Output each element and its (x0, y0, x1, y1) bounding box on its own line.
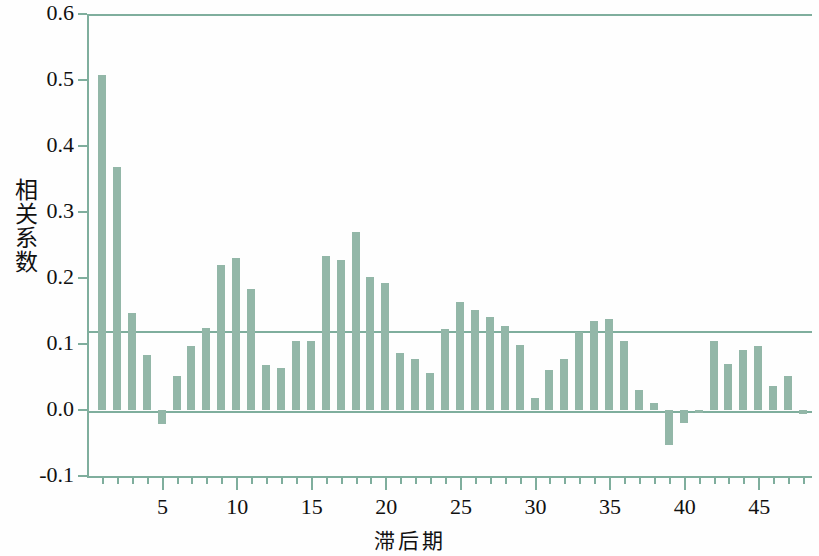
y-axis-tick-label: 0.5 (47, 66, 75, 92)
bar-lag-12 (262, 365, 270, 410)
bar-lag-4 (143, 355, 151, 410)
x-axis-major-tick: 35 (609, 476, 611, 490)
x-axis-tick-label: 15 (301, 494, 323, 520)
y-axis-tick-label: 0.0 (47, 396, 75, 422)
y-axis-tick-label: 0.4 (47, 132, 75, 158)
bar-lag-32 (560, 359, 568, 410)
x-axis-minor-tick (132, 476, 134, 484)
bar-lag-41 (695, 410, 703, 413)
x-axis-minor-tick (579, 476, 581, 484)
x-axis-minor-tick (520, 476, 522, 484)
x-axis-minor-tick (803, 476, 805, 484)
y-axis-tick: -0.1 (78, 475, 87, 477)
x-axis-minor-tick (490, 476, 492, 484)
bar-lag-5 (158, 410, 166, 424)
bar-lag-16 (322, 256, 330, 410)
y-axis-tick-label: 0.2 (47, 264, 75, 290)
x-axis-tick-label: 30 (525, 494, 547, 520)
x-axis-minor-tick (296, 476, 298, 484)
x-axis-minor-tick (326, 476, 328, 484)
x-axis-major-tick: 30 (535, 476, 537, 490)
y-axis-tick: 0.1 (78, 343, 87, 345)
bar-lag-35 (605, 319, 613, 410)
bar-lag-23 (426, 373, 434, 410)
x-axis-minor-tick (594, 476, 596, 484)
bar-lag-45 (754, 346, 762, 410)
x-axis-minor-tick (475, 476, 477, 484)
x-axis-minor-tick (773, 476, 775, 484)
bar-lag-21 (396, 353, 404, 410)
bar-lag-36 (620, 341, 628, 410)
bar-lag-31 (545, 370, 553, 410)
x-axis-minor-tick (356, 476, 358, 484)
x-axis-minor-tick (430, 476, 432, 484)
bar-lag-11 (247, 289, 255, 410)
x-axis-minor-tick (699, 476, 701, 484)
bar-lag-47 (784, 376, 792, 410)
x-axis-minor-tick (624, 476, 626, 484)
bar-lag-40 (680, 410, 688, 423)
x-axis-minor-tick (445, 476, 447, 484)
y-axis-tick: 0.6 (78, 13, 87, 15)
x-axis-major-tick: 15 (311, 476, 313, 490)
x-axis-minor-tick (714, 476, 716, 484)
x-axis-minor-tick (654, 476, 656, 484)
bar-lag-9 (217, 265, 225, 410)
bar-lag-26 (471, 310, 479, 410)
x-axis-minor-tick (281, 476, 283, 484)
y-axis-tick: 0.3 (78, 211, 87, 213)
x-axis-minor-tick (788, 476, 790, 484)
bar-lag-24 (441, 329, 449, 410)
x-axis-minor-tick (505, 476, 507, 484)
bar-lag-14 (292, 341, 300, 410)
bar-lag-7 (187, 346, 195, 410)
x-axis-minor-tick (206, 476, 208, 484)
bar-lag-13 (277, 368, 285, 410)
x-axis-tick-label: 25 (450, 494, 472, 520)
bar-lag-10 (232, 258, 240, 410)
bar-lag-39 (665, 410, 673, 445)
x-axis-minor-tick (564, 476, 566, 484)
x-axis-major-tick: 5 (162, 476, 164, 490)
x-axis-minor-tick (177, 476, 179, 484)
plot-area: 0.60.50.40.30.20.10.0-0.1 51015202530354… (87, 14, 812, 478)
x-axis-minor-tick (117, 476, 119, 484)
bar-lag-15 (307, 341, 315, 410)
bar-lag-48 (799, 410, 807, 414)
x-axis-title: 滞后期 (0, 524, 819, 554)
x-axis-minor-tick (221, 476, 223, 484)
x-axis-minor-tick (549, 476, 551, 484)
bar-lag-30 (531, 398, 539, 410)
x-axis-minor-tick (102, 476, 104, 484)
bar-lag-37 (635, 390, 643, 410)
y-axis-title: 相关系数 (6, 178, 40, 274)
bar-lag-19 (366, 277, 374, 410)
bar-lag-28 (501, 326, 509, 410)
bar-lag-6 (173, 376, 181, 410)
y-axis-tick-label: 0.3 (47, 198, 75, 224)
x-axis-tick-label: 45 (748, 494, 770, 520)
bar-lag-3 (128, 313, 136, 410)
x-axis-minor-tick (743, 476, 745, 484)
x-axis-major-tick: 40 (684, 476, 686, 490)
x-axis-minor-tick (370, 476, 372, 484)
y-axis-line (87, 14, 89, 478)
x-axis-major-tick: 45 (758, 476, 760, 490)
autocorrelation-chart: 相关系数 0.60.50.40.30.20.10.0-0.1 510152025… (0, 0, 819, 556)
x-axis-minor-tick (400, 476, 402, 484)
x-axis-tick-label: 40 (674, 494, 696, 520)
bar-lag-8 (202, 328, 210, 410)
bar-lag-46 (769, 386, 777, 410)
y-axis-tick: 0.0 (78, 409, 87, 411)
significance-threshold-line (87, 331, 812, 333)
bar-lag-38 (650, 403, 658, 410)
bar-lag-2 (113, 167, 121, 410)
x-axis-major-tick: 25 (460, 476, 462, 490)
bar-lag-42 (710, 341, 718, 410)
bar-lag-33 (575, 332, 583, 410)
y-axis-tick: 0.2 (78, 277, 87, 279)
x-axis-tick-label: 20 (375, 494, 397, 520)
bar-lag-20 (381, 283, 389, 410)
bar-lag-22 (411, 359, 419, 410)
x-axis-major-tick: 10 (236, 476, 238, 490)
